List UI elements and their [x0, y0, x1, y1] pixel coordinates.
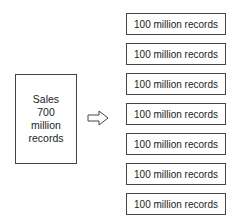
partition-label: 100 million records — [134, 199, 218, 210]
partition-box-1: 100 million records — [126, 13, 226, 35]
partition-box-2: 100 million records — [126, 43, 226, 65]
partition-label: 100 million records — [134, 109, 218, 120]
source-line-title: Sales — [33, 93, 59, 106]
partition-label: 100 million records — [134, 139, 218, 150]
partition-box-7: 100 million records — [126, 193, 226, 215]
source-line-unit: million — [31, 119, 61, 132]
partition-label: 100 million records — [134, 19, 218, 30]
partition-box-3: 100 million records — [126, 73, 226, 95]
partition-label: 100 million records — [134, 169, 218, 180]
source-line-records: records — [28, 132, 63, 145]
sales-table-box: Sales 700 million records — [15, 74, 77, 164]
hollow-right-arrow-icon — [87, 110, 109, 126]
partition-box-6: 100 million records — [126, 163, 226, 185]
source-line-count: 700 — [37, 106, 55, 119]
partition-label: 100 million records — [134, 49, 218, 60]
partition-box-5: 100 million records — [126, 133, 226, 155]
partition-box-4: 100 million records — [126, 103, 226, 125]
partition-label: 100 million records — [134, 79, 218, 90]
